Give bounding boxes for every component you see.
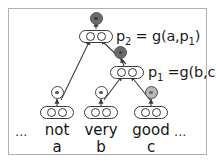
word-sentiment-node-not — [51, 86, 64, 99]
p1-equation-lhs: p — [148, 64, 157, 80]
word-label-very: very — [79, 121, 123, 139]
word-sentiment-node-very — [95, 86, 108, 99]
p2-sentiment-node — [90, 12, 103, 25]
trailing-ellipsis: ... — [174, 124, 186, 139]
word-sentiment-dot-not — [55, 91, 59, 95]
word-vector-good — [134, 106, 168, 119]
variable-label-b: b — [79, 138, 123, 156]
recursive-neural-network-diagram: p2 = g(a,p1) p1 =g(b,c) ... not very goo… — [0, 0, 216, 166]
p1-equation: p1 =g(b,c) — [148, 64, 216, 83]
word-vector-not-cell-1 — [47, 108, 56, 117]
variable-label-a: a — [37, 138, 77, 156]
p1-equation-rhs: =g(b,c) — [163, 64, 216, 80]
word-sentiment-dot-very — [99, 91, 103, 95]
word-sentiment-node-good — [145, 86, 158, 99]
p2-equation: p2 = g(a,p1) — [116, 28, 200, 47]
leading-ellipsis: ... — [15, 124, 27, 139]
p2-vector — [79, 30, 113, 43]
word-vector-not — [40, 106, 74, 119]
p1-vector — [110, 66, 144, 79]
word-vector-good-cell-2 — [152, 108, 161, 117]
p1-sentiment-node — [114, 46, 127, 59]
p2-equation-rhs-tail: ) — [195, 28, 200, 44]
word-vector-very-cell-2 — [102, 108, 111, 117]
p2-vector-cell-2 — [97, 32, 106, 41]
p1-vector-cell-2 — [128, 68, 137, 77]
word-label-good: good — [128, 121, 174, 139]
variable-label-c: c — [128, 138, 174, 156]
word-vector-very — [84, 106, 118, 119]
edge-not-to-p2 — [61, 40, 90, 100]
p2-vector-cell-1 — [86, 32, 95, 41]
p2-equation-lhs: p — [116, 28, 125, 44]
word-label-not: not — [37, 121, 77, 139]
word-vector-not-cell-2 — [58, 108, 67, 117]
p2-sentiment-dot — [94, 17, 98, 21]
p1-vector-cell-1 — [117, 68, 126, 77]
p2-equation-rhs: = g(a,p — [131, 28, 188, 44]
p1-sentiment-dot — [119, 51, 123, 55]
word-sentiment-dot-good — [149, 91, 153, 95]
word-vector-very-cell-1 — [91, 108, 100, 117]
word-vector-good-cell-1 — [141, 108, 150, 117]
